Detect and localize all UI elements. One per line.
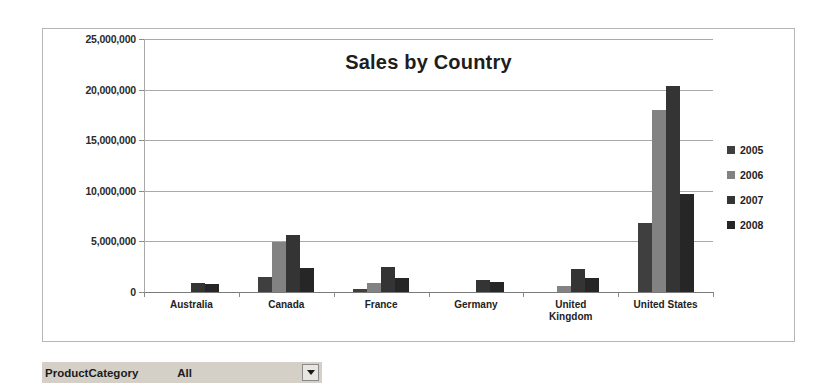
x-axis-tick-label-line: Germany bbox=[429, 299, 524, 311]
bar bbox=[652, 110, 666, 292]
bar bbox=[638, 223, 652, 292]
y-axis-tick-label: 25,000,000 bbox=[44, 33, 136, 45]
x-axis-tick-label: Australia bbox=[144, 299, 239, 311]
legend-label: 2006 bbox=[740, 169, 763, 181]
chevron-down-icon[interactable] bbox=[302, 364, 319, 381]
x-axis-tick-mark bbox=[429, 292, 430, 297]
bar-group bbox=[353, 39, 409, 292]
bar bbox=[258, 277, 272, 292]
y-axis-tick-mark bbox=[139, 191, 144, 192]
bar bbox=[191, 283, 205, 292]
legend-item: 2005 bbox=[727, 137, 787, 162]
legend-label: 2005 bbox=[740, 144, 763, 156]
bar bbox=[205, 284, 219, 292]
bar-group bbox=[448, 39, 504, 292]
x-axis-tick-label: Germany bbox=[429, 299, 524, 311]
bar-group bbox=[163, 39, 219, 292]
y-axis-tick-label: 0 bbox=[44, 286, 136, 298]
y-axis-tick-mark bbox=[139, 90, 144, 91]
bar-group bbox=[638, 39, 694, 292]
x-axis-tick-mark bbox=[523, 292, 524, 297]
gridline bbox=[144, 241, 713, 242]
y-axis-tick-mark bbox=[139, 241, 144, 242]
bar bbox=[272, 242, 286, 292]
gridline bbox=[144, 39, 713, 40]
legend-swatch-icon bbox=[727, 146, 735, 154]
x-axis-tick-label: UnitedKingdom bbox=[523, 299, 618, 323]
gridline bbox=[144, 191, 713, 192]
x-axis-tick-mark bbox=[618, 292, 619, 297]
legend-item: 2006 bbox=[727, 162, 787, 187]
bar-group bbox=[543, 39, 599, 292]
x-axis-tick-label-line: Canada bbox=[239, 299, 334, 311]
bar bbox=[395, 278, 409, 292]
bar bbox=[680, 194, 694, 292]
x-axis-tick-label-line: France bbox=[334, 299, 429, 311]
x-axis-tick-mark bbox=[713, 292, 714, 297]
y-axis-tick-label: 10,000,000 bbox=[44, 185, 136, 197]
x-axis-tick-label-line: United bbox=[523, 299, 618, 311]
bar bbox=[666, 86, 680, 292]
bar bbox=[367, 283, 381, 292]
chart-container: Sales by Country 05,000,00010,000,00015,… bbox=[42, 28, 795, 342]
plot-area: 05,000,00010,000,00015,000,00020,000,000… bbox=[144, 39, 713, 293]
bar bbox=[476, 280, 490, 292]
bar bbox=[300, 268, 314, 292]
legend-item: 2008 bbox=[727, 212, 787, 237]
bar bbox=[286, 235, 300, 292]
bar bbox=[571, 269, 585, 292]
y-axis-tick-label: 15,000,000 bbox=[44, 134, 136, 146]
bar bbox=[585, 278, 599, 292]
legend-swatch-icon bbox=[727, 221, 735, 229]
legend-item: 2007 bbox=[727, 187, 787, 212]
bar bbox=[353, 289, 367, 292]
bar-group bbox=[258, 39, 314, 292]
bar bbox=[381, 267, 395, 292]
x-axis-tick-label-line: United States bbox=[618, 299, 713, 311]
bar bbox=[490, 282, 504, 292]
product-category-value: All bbox=[177, 367, 192, 379]
bar bbox=[557, 286, 571, 292]
x-axis-tick-label-line: Australia bbox=[144, 299, 239, 311]
y-axis-line bbox=[144, 39, 145, 293]
x-axis-tick-mark bbox=[334, 292, 335, 297]
legend-label: 2008 bbox=[740, 219, 763, 231]
x-axis-tick-mark bbox=[144, 292, 145, 297]
x-axis-tick-label: Canada bbox=[239, 299, 334, 311]
product-category-label: ProductCategory bbox=[45, 367, 138, 379]
y-axis-tick-label: 5,000,000 bbox=[44, 235, 136, 247]
gridline bbox=[144, 140, 713, 141]
x-axis-tick-mark bbox=[239, 292, 240, 297]
y-axis-tick-label: 20,000,000 bbox=[44, 84, 136, 96]
x-axis-tick-label-line: Kingdom bbox=[523, 311, 618, 323]
legend-label: 2007 bbox=[740, 194, 763, 206]
legend-swatch-icon bbox=[727, 196, 735, 204]
gridline bbox=[144, 90, 713, 91]
x-axis-tick-label: United States bbox=[618, 299, 713, 311]
chart-legend: 2005200620072008 bbox=[727, 137, 787, 237]
x-axis-tick-label: France bbox=[334, 299, 429, 311]
y-axis-tick-mark bbox=[139, 39, 144, 40]
legend-swatch-icon bbox=[727, 171, 735, 179]
product-category-parameter-bar[interactable]: ProductCategory All bbox=[42, 362, 322, 383]
y-axis-tick-mark bbox=[139, 140, 144, 141]
